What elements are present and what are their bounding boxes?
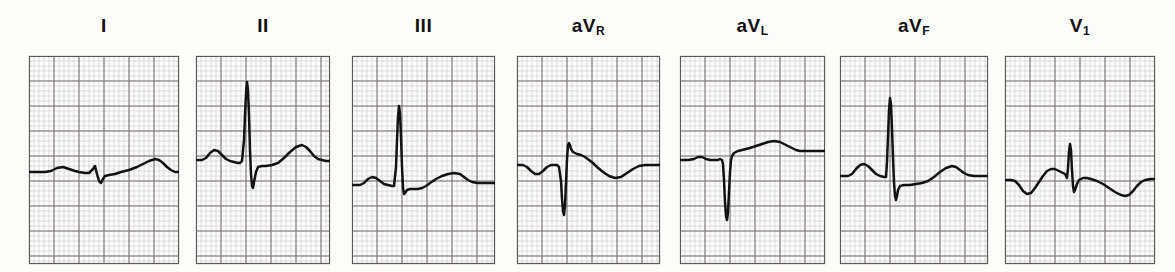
lead-panel-iii: III <box>352 0 495 272</box>
ecg-trace-avf <box>840 98 988 200</box>
ecg-trace-avr <box>517 143 660 215</box>
lead-label-ii: II <box>196 16 330 36</box>
lead-label-base: aV <box>572 15 596 36</box>
lead-panel-avf: aVF <box>840 0 988 272</box>
ecg-grid-ii <box>196 56 330 264</box>
lead-label-iii: III <box>352 16 495 36</box>
lead-panel-avr: aVR <box>517 0 660 272</box>
lead-label-base: II <box>257 15 269 36</box>
lead-label-subscript: 1 <box>1083 24 1090 38</box>
ecg-grid-v1 <box>1005 56 1155 264</box>
ecg-grid-avl <box>680 56 825 264</box>
lead-label-base: III <box>415 15 432 36</box>
lead-label-base: aV <box>736 15 760 36</box>
lead-panel-avl: aVL <box>680 0 825 272</box>
lead-label-v1: V1 <box>1005 16 1155 38</box>
lead-label-i: I <box>29 16 179 36</box>
lead-label-base: aV <box>898 15 922 36</box>
ecg-grid-avr <box>517 56 660 264</box>
ecg-figure: IIIIIIaVRaVLaVFV1 <box>0 0 1175 272</box>
lead-panel-ii: II <box>196 0 330 272</box>
ecg-grid-i <box>29 56 179 264</box>
ecg-trace-avl <box>680 141 825 220</box>
lead-label-subscript: F <box>922 24 930 38</box>
lead-label-base: V <box>1070 15 1083 36</box>
lead-panel-v1: V1 <box>1005 0 1155 272</box>
lead-label-avl: aVL <box>680 16 825 38</box>
ecg-grid-avf <box>840 56 988 264</box>
lead-label-subscript: R <box>596 24 605 38</box>
lead-label-subscript: L <box>761 24 769 38</box>
ecg-grid-iii <box>352 56 495 264</box>
lead-label-avf: aVF <box>840 16 988 38</box>
lead-label-avr: aVR <box>517 16 660 38</box>
lead-panel-i: I <box>29 0 179 272</box>
lead-label-base: I <box>101 15 107 36</box>
